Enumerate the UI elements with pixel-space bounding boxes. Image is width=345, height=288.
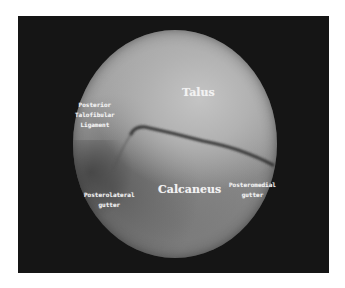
label-calcaneus: Calcaneus: [158, 184, 221, 196]
label-posteromedial-gutter: Posteromedial gutter: [229, 180, 276, 200]
label-talus: Talus: [182, 87, 215, 99]
scope-vignette: [73, 30, 277, 258]
arthroscope-view: [73, 30, 277, 258]
label-posterolateral-gutter: Posterolateral gutter: [84, 190, 135, 210]
label-posterior-talofibular-ligament: Posterior Talofibular Ligament: [75, 100, 115, 130]
image-frame: Talus Posterior Talofibular Ligament Cal…: [18, 16, 329, 273]
